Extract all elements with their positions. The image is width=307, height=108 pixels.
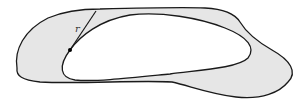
- region-diagram: [0, 0, 307, 108]
- annular-region-figure: r: [0, 0, 307, 108]
- boundary-point: [68, 48, 72, 52]
- label-r: r: [75, 24, 80, 34]
